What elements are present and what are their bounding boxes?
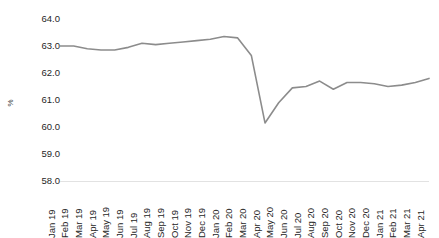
plot-area xyxy=(60,12,429,182)
x-tick-label: Oct 20 xyxy=(334,184,344,238)
x-tick-label: Feb 21 xyxy=(388,184,398,238)
x-tick-label: Mar 21 xyxy=(402,184,412,238)
y-tick-label: 59.0 xyxy=(20,149,60,159)
y-tick-label: 60.0 xyxy=(20,122,60,132)
x-axis-tick-labels: Jan 19Feb 19Mar 19Apr 19May 19Jun 19Jul … xyxy=(60,184,429,238)
x-tick-label: Jan 21 xyxy=(375,184,385,238)
line-chart: % 64.063.062.061.060.059.058.0 Jan 19Feb… xyxy=(0,0,439,238)
x-tick-label: Apr 21 xyxy=(416,184,426,238)
y-tick-label: 61.0 xyxy=(20,95,60,105)
x-tick-label: May 19 xyxy=(101,184,111,238)
x-tick-label: Jan 19 xyxy=(47,184,57,238)
x-tick-label: Sep 19 xyxy=(156,184,166,238)
x-tick-label: Jun 20 xyxy=(279,184,289,238)
x-tick-label: Feb 19 xyxy=(60,184,70,238)
x-tick-label: Aug 19 xyxy=(142,184,152,238)
x-tick-label: Mar 19 xyxy=(74,184,84,238)
x-tick-label: Jun 19 xyxy=(115,184,125,238)
data-series-line xyxy=(60,12,429,182)
x-tick-label: Aug 20 xyxy=(306,184,316,238)
x-tick-label: Nov 20 xyxy=(347,184,357,238)
x-tick-label: May 20 xyxy=(265,184,275,238)
x-tick-label: Apr 19 xyxy=(88,184,98,238)
x-tick-label: Oct 19 xyxy=(170,184,180,238)
x-tick-label: Apr 20 xyxy=(252,184,262,238)
x-tick-label: Sep 20 xyxy=(320,184,330,238)
x-tick-label: Jul 20 xyxy=(293,184,303,238)
x-tick-label: Mar 20 xyxy=(238,184,248,238)
x-tick-label: Feb 20 xyxy=(224,184,234,238)
x-tick-label: Dec 19 xyxy=(197,184,207,238)
x-tick-label: Nov 19 xyxy=(183,184,193,238)
x-tick-label: Jan 20 xyxy=(211,184,221,238)
y-tick-label: 64.0 xyxy=(20,14,60,24)
y-axis-title: % xyxy=(2,94,20,112)
x-tick-label: Dec 20 xyxy=(361,184,371,238)
y-tick-label: 63.0 xyxy=(20,41,60,51)
x-tick-label: Jul 19 xyxy=(129,184,139,238)
y-tick-label: 62.0 xyxy=(20,68,60,78)
